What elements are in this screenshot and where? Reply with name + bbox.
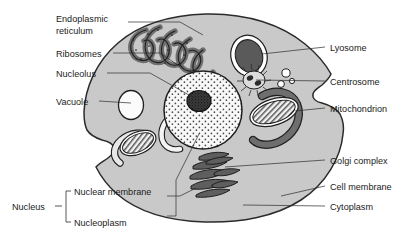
label-endoplasmic-reticulum-line1[interactable]: Endoplasmic xyxy=(56,14,109,24)
label-cell-membrane[interactable]: Cell membrane xyxy=(330,182,392,192)
cell-diagram-canvas: Endoplasmic reticulum Ribosomes Nucleolu… xyxy=(0,0,411,232)
vesicle-2 xyxy=(278,81,285,88)
vesicle-3 xyxy=(289,78,294,83)
label-nucleoplasm[interactable]: Nucleoplasm xyxy=(74,218,127,228)
label-nucleolus[interactable]: Nucleolus xyxy=(56,69,96,79)
label-centrosome[interactable]: Centrosome xyxy=(330,77,380,87)
cell-diagram-svg: Endoplasmic reticulum Ribosomes Nucleolu… xyxy=(0,0,411,232)
vacuole-body xyxy=(119,91,144,120)
label-vacuole[interactable]: Vacuole xyxy=(56,97,88,107)
nucleolus[interactable] xyxy=(187,91,211,112)
nucleus-bracket-left xyxy=(66,191,71,222)
label-cytoplasm[interactable]: Cytoplasm xyxy=(330,202,373,212)
label-lyosome[interactable]: Lyosome xyxy=(330,43,367,53)
vacuole[interactable] xyxy=(119,91,144,120)
label-golgi-complex[interactable]: Golgi complex xyxy=(330,156,388,166)
label-endoplasmic-reticulum-line2[interactable]: reticulum xyxy=(56,26,93,36)
labels-nucleus-group: Nucleus Nuclear membrane Nucleoplasm xyxy=(12,187,151,228)
vesicle-1 xyxy=(282,69,290,77)
label-mitochondrion[interactable]: Mitochondrion xyxy=(330,104,387,114)
label-ribosomes[interactable]: Ribosomes xyxy=(56,49,102,59)
label-nucleus-group[interactable]: Nucleus xyxy=(12,202,45,212)
label-nuclear-membrane[interactable]: Nuclear membrane xyxy=(74,187,151,197)
